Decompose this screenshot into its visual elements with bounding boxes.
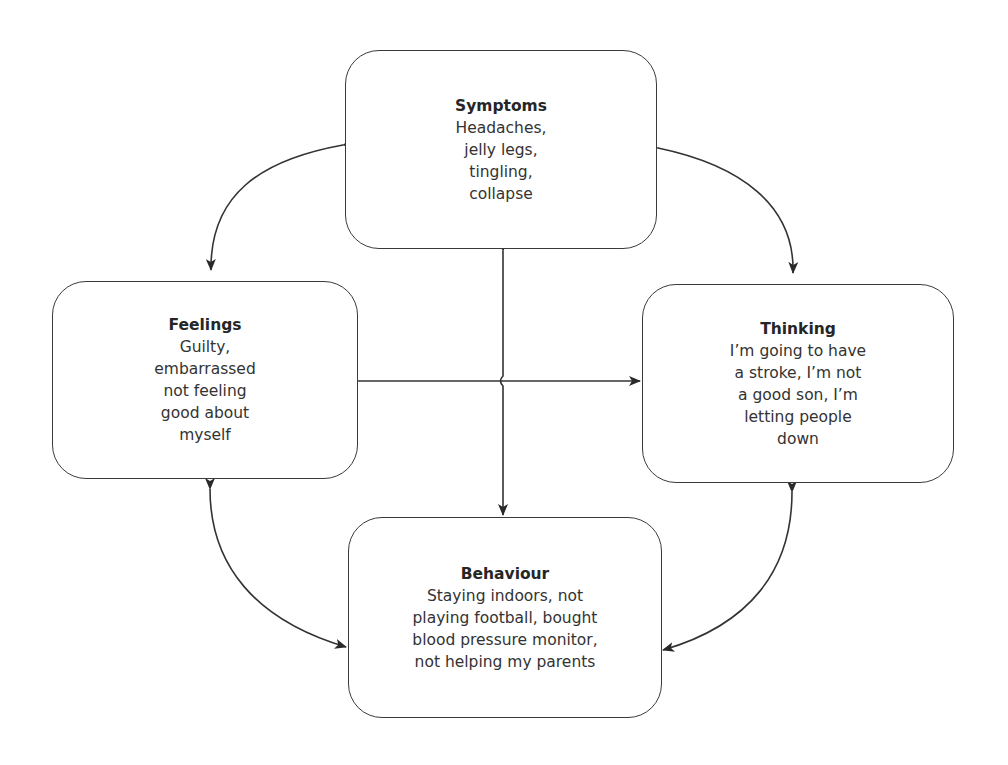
- node-feelings-body: Guilty, embarrassed not feeling good abo…: [154, 336, 255, 446]
- node-thinking: Thinking I’m going to have a stroke, I’m…: [642, 284, 954, 483]
- node-thinking-body: I’m going to have a stroke, I’m not a go…: [730, 340, 866, 450]
- arrow-symptoms-behaviour: [501, 251, 504, 515]
- node-symptoms-body: Headaches, jelly legs, tingling, collaps…: [456, 117, 547, 205]
- node-behaviour: Behaviour Staying indoors, not playing f…: [348, 517, 662, 718]
- node-symptoms-title: Symptoms: [455, 95, 547, 117]
- node-feelings: Feelings Guilty, embarrassed not feeling…: [52, 281, 358, 479]
- node-thinking-title: Thinking: [760, 318, 836, 340]
- arrow-thinking-behaviour: [663, 492, 792, 650]
- node-behaviour-body: Staying indoors, not playing football, b…: [412, 585, 597, 673]
- node-symptoms: Symptoms Headaches, jelly legs, tingling…: [345, 50, 657, 249]
- arrow-symptoms-feelings: [211, 145, 343, 270]
- arrow-feelings-behaviour: [210, 489, 346, 647]
- node-behaviour-title: Behaviour: [461, 563, 550, 585]
- node-feelings-title: Feelings: [169, 314, 242, 336]
- arrow-symptoms-thinking: [658, 148, 793, 273]
